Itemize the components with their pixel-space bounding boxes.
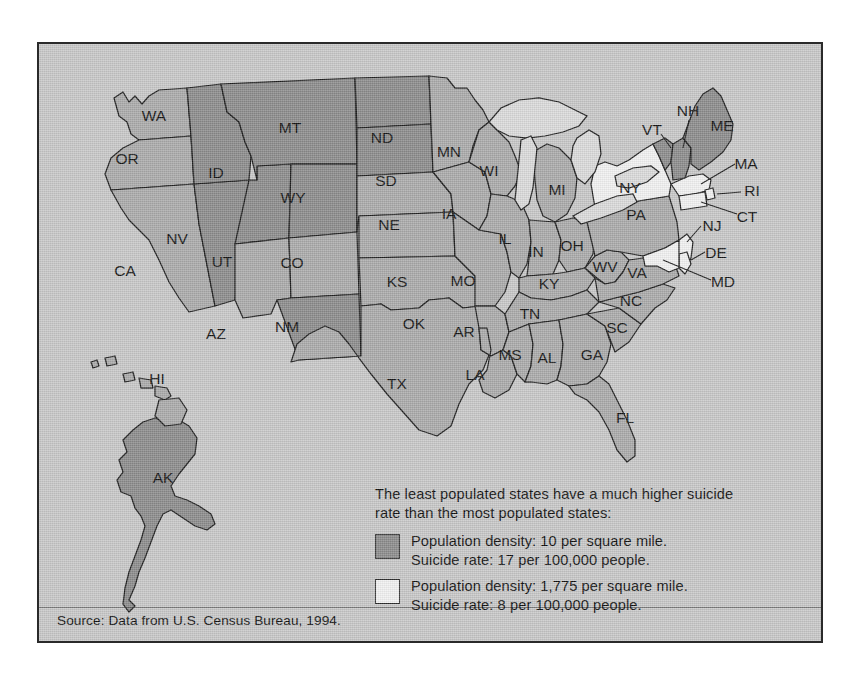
state-label-IA: IA bbox=[442, 205, 457, 222]
high-density-swatch bbox=[375, 579, 400, 604]
state-label-VT: VT bbox=[642, 121, 662, 138]
state-label-AK: AK bbox=[153, 469, 174, 486]
state-label-MI: MI bbox=[548, 181, 565, 198]
state-label-AZ: AZ bbox=[206, 325, 226, 342]
state-label-VA: VA bbox=[627, 264, 647, 281]
low-density-line1: Population density: 10 per square mile. bbox=[411, 533, 667, 549]
state-label-NM: NM bbox=[275, 318, 299, 335]
state-HI-3 bbox=[123, 372, 135, 382]
low-density-line2: Suicide rate: 17 per 100,000 people. bbox=[411, 552, 650, 568]
low-density-swatch bbox=[375, 534, 400, 559]
high-density-line2: Suicide rate: 8 per 100,000 people. bbox=[411, 597, 642, 613]
leader-CT bbox=[701, 202, 737, 214]
high-density-line1: Population density: 1,775 per square mil… bbox=[411, 578, 688, 594]
state-label-SD: SD bbox=[375, 172, 397, 189]
legend-row-low-density: Population density: 10 per square mile. … bbox=[375, 532, 795, 570]
state-label-CA: CA bbox=[114, 262, 136, 279]
state-label-SC: SC bbox=[606, 319, 628, 336]
state-label-MS: MS bbox=[498, 346, 521, 363]
state-label-NC: NC bbox=[620, 292, 642, 309]
state-label-ID: ID bbox=[208, 164, 224, 181]
state-label-NE: NE bbox=[378, 216, 400, 233]
map-figure: .st{stroke:#1d1d1d;stroke-width:1.25;str… bbox=[37, 42, 823, 643]
state-label-KS: KS bbox=[387, 273, 408, 290]
state-SD bbox=[357, 124, 433, 176]
state-label-NJ: NJ bbox=[703, 217, 722, 234]
state-label-LA: LA bbox=[466, 366, 486, 383]
legend-intro-line2: rate than the most populated states: bbox=[375, 505, 611, 521]
state-HI-1 bbox=[91, 360, 99, 368]
state-label-MD: MD bbox=[711, 273, 735, 290]
state-label-ND: ND bbox=[371, 129, 393, 146]
state-KS bbox=[359, 212, 455, 258]
leader-RI bbox=[717, 192, 741, 194]
state-label-FL: FL bbox=[616, 409, 634, 426]
state-label-WY: WY bbox=[281, 189, 306, 206]
map-legend: The least populated states have a much h… bbox=[375, 485, 795, 622]
state-HI-5 bbox=[155, 386, 171, 400]
legend-row-high-density: Population density: 1,775 per square mil… bbox=[375, 577, 795, 615]
state-label-MN: MN bbox=[437, 143, 461, 160]
state-label-TX: TX bbox=[387, 375, 407, 392]
state-label-GA: GA bbox=[581, 346, 604, 363]
state-label-UT: UT bbox=[212, 253, 233, 270]
state-label-MA: MA bbox=[734, 155, 758, 172]
state-label-HI: HI bbox=[149, 370, 165, 387]
state-AK bbox=[117, 418, 215, 612]
state-label-WA: WA bbox=[142, 107, 167, 124]
great-lakes-michigan bbox=[515, 136, 537, 210]
state-label-OK: OK bbox=[403, 315, 426, 332]
state-label-KY: KY bbox=[539, 275, 560, 292]
state-HI-2 bbox=[105, 356, 117, 366]
state-label-RI: RI bbox=[744, 182, 760, 199]
state-label-IL: IL bbox=[499, 230, 512, 247]
state-label-WI: WI bbox=[480, 162, 499, 179]
state-label-OR: OR bbox=[115, 150, 138, 167]
state-label-TN: TN bbox=[520, 305, 541, 322]
state-label-OH: OH bbox=[560, 237, 583, 254]
state-label-AL: AL bbox=[538, 349, 557, 366]
legend-intro-line1: The least populated states have a much h… bbox=[375, 486, 733, 502]
leader-NJ bbox=[687, 226, 701, 242]
state-label-IN: IN bbox=[528, 243, 544, 260]
low-density-text: Population density: 10 per square mile. … bbox=[411, 532, 667, 570]
state-label-NV: NV bbox=[166, 230, 188, 247]
leader-DE bbox=[691, 252, 705, 260]
state-label-ME: ME bbox=[710, 117, 733, 134]
source-note: Source: Data from U.S. Census Bureau, 19… bbox=[57, 613, 341, 628]
leader-MA bbox=[701, 164, 735, 184]
state-label-NH: NH bbox=[677, 102, 699, 119]
state-label-MT: MT bbox=[279, 119, 302, 136]
state-label-DE: DE bbox=[705, 244, 727, 261]
great-lakes-superior bbox=[489, 98, 587, 138]
state-label-MO: MO bbox=[451, 272, 476, 289]
high-density-text: Population density: 1,775 per square mil… bbox=[411, 577, 688, 615]
state-label-WV: WV bbox=[593, 258, 619, 275]
state-ND bbox=[355, 76, 431, 128]
legend-intro: The least populated states have a much h… bbox=[375, 485, 795, 523]
state-label-NY: NY bbox=[619, 179, 641, 196]
state-label-AR: AR bbox=[453, 323, 475, 340]
state-label-CT: CT bbox=[737, 208, 758, 225]
state-label-CO: CO bbox=[280, 254, 303, 271]
state-label-PA: PA bbox=[626, 206, 646, 223]
